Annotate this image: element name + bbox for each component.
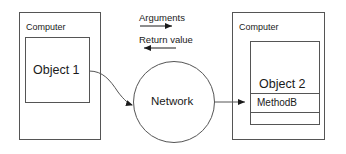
right-object-label: Object 2 [259,78,306,91]
network-label: Network [151,96,193,108]
arguments-label: Arguments [139,13,185,23]
return-value-label: Return value [139,35,193,45]
left-computer-label: Computer [26,23,66,32]
right-object-method-label: MethodB [257,98,297,108]
object1-to-network-connector [89,71,132,105]
left-object-label: Object 1 [33,64,80,77]
diagram-canvas: Computer Object 1 Arguments Return value… [0,0,346,154]
right-computer-label: Computer [239,23,279,32]
